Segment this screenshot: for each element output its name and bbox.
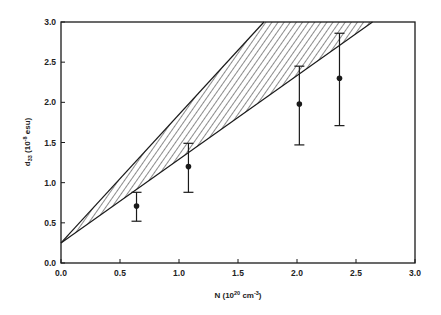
hatched-band: [61, 22, 373, 243]
y-tick-label: 0.5: [44, 218, 56, 228]
x-tick-label: 2.5: [350, 268, 362, 278]
x-tick-label: 3.0: [409, 268, 421, 278]
x-tick-label: 1.0: [173, 268, 185, 278]
y-tick-label: 2.0: [44, 97, 56, 107]
upper-bound-line: [61, 22, 264, 243]
y-tick-label: 2.5: [44, 57, 56, 67]
y-axis-label: d33 (10-8 esu): [22, 117, 33, 166]
x-axis-label: N (1020 cm-3): [214, 290, 261, 300]
y-tick-label: 1.5: [44, 138, 56, 148]
y-tick-label: 0.0: [44, 258, 56, 268]
y-tick-label: 1.0: [44, 178, 56, 188]
x-tick-label: 2.0: [291, 268, 303, 278]
x-tick-label: 0.0: [55, 268, 67, 278]
data-point: [294, 66, 304, 145]
data-point: [132, 192, 142, 221]
x-tick-label: 0.5: [114, 268, 126, 278]
chart-canvas: 0.00.51.01.52.02.53.00.00.51.01.52.02.53…: [0, 0, 441, 315]
lower-bound-line: [61, 22, 373, 243]
x-tick-label: 1.5: [232, 268, 244, 278]
y-tick-label: 3.0: [44, 17, 56, 27]
